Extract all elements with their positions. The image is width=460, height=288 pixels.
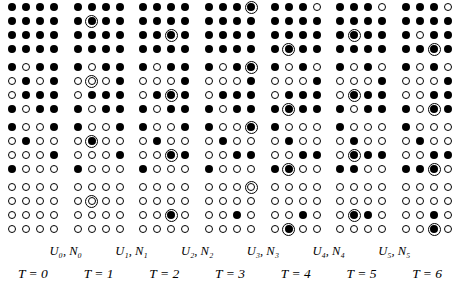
filled-site-icon bbox=[36, 105, 44, 113]
lattice-cell bbox=[361, 14, 375, 28]
empty-site-icon bbox=[247, 211, 255, 219]
filled-site-icon bbox=[153, 3, 161, 11]
empty-site-icon bbox=[116, 197, 124, 205]
lattice-cell bbox=[230, 74, 244, 88]
empty-site-icon bbox=[336, 183, 344, 191]
lattice-cell bbox=[202, 74, 216, 88]
lattice-cell bbox=[216, 162, 230, 176]
filled-site-icon bbox=[430, 45, 438, 53]
lattice-cell bbox=[33, 88, 47, 102]
lattice-cell bbox=[361, 134, 375, 148]
lattice-cell bbox=[85, 74, 99, 88]
lattice-band bbox=[268, 0, 324, 56]
empty-site-icon bbox=[350, 105, 358, 113]
filled-site-icon bbox=[378, 151, 386, 159]
empty-site-icon bbox=[205, 151, 213, 159]
lattice-cell bbox=[230, 162, 244, 176]
lattice-cell bbox=[399, 208, 413, 222]
lattice-cell bbox=[19, 194, 33, 208]
lattice-cell bbox=[244, 0, 258, 14]
lattice-cell bbox=[202, 14, 216, 28]
empty-site-icon bbox=[313, 123, 321, 131]
lattice-cell bbox=[216, 42, 230, 56]
lattice-cell bbox=[178, 120, 192, 134]
lattice-cell bbox=[136, 162, 150, 176]
filled-site-icon bbox=[8, 63, 16, 71]
lattice-cell bbox=[361, 0, 375, 14]
empty-site-icon bbox=[336, 137, 344, 145]
lattice-cell bbox=[216, 194, 230, 208]
lattice-cell bbox=[296, 60, 310, 74]
empty-site-icon bbox=[219, 197, 227, 205]
lattice-cell bbox=[333, 88, 347, 102]
lattice-cell bbox=[427, 74, 441, 88]
lattice-cell bbox=[347, 194, 361, 208]
empty-site-icon bbox=[285, 151, 293, 159]
filled-site-icon bbox=[36, 63, 44, 71]
filled-site-icon bbox=[271, 63, 279, 71]
lattice-cell bbox=[333, 42, 347, 56]
lattice-cell bbox=[296, 180, 310, 194]
filled-site-icon bbox=[181, 45, 189, 53]
empty-site-icon bbox=[74, 137, 82, 145]
empty-site-icon bbox=[416, 225, 424, 233]
filled-site-icon bbox=[139, 165, 147, 173]
lattice-cell bbox=[19, 28, 33, 42]
lattice-cell bbox=[427, 102, 441, 116]
lattice-cell bbox=[296, 74, 310, 88]
filled-site-icon bbox=[402, 123, 410, 131]
empty-site-icon bbox=[22, 123, 30, 131]
filled-site-icon bbox=[139, 17, 147, 25]
lattice-cell bbox=[216, 134, 230, 148]
lattice-cell bbox=[113, 162, 127, 176]
filled-site-icon bbox=[8, 123, 16, 131]
filled-site-icon bbox=[50, 17, 58, 25]
filled-site-icon bbox=[247, 63, 255, 71]
empty-site-icon bbox=[50, 137, 58, 145]
lattice-cell bbox=[347, 74, 361, 88]
filled-site-icon bbox=[50, 63, 58, 71]
empty-site-icon bbox=[88, 225, 96, 233]
filled-site-icon bbox=[364, 63, 372, 71]
lattice-cell bbox=[333, 208, 347, 222]
filled-site-icon bbox=[102, 31, 110, 39]
lattice-cell bbox=[33, 0, 47, 14]
empty-site-icon bbox=[102, 151, 110, 159]
filled-site-icon bbox=[102, 3, 110, 11]
empty-site-icon bbox=[50, 183, 58, 191]
lattice-cell bbox=[99, 194, 113, 208]
filled-site-icon bbox=[350, 211, 358, 219]
empty-site-icon bbox=[313, 3, 321, 11]
lattice-cell bbox=[296, 148, 310, 162]
lattice-cell bbox=[244, 162, 258, 176]
filled-site-icon bbox=[205, 31, 213, 39]
filled-site-icon bbox=[153, 31, 161, 39]
lattice-cell bbox=[216, 208, 230, 222]
lattice-cell bbox=[427, 42, 441, 56]
filled-site-icon bbox=[247, 3, 255, 11]
filled-site-icon bbox=[8, 3, 16, 11]
filled-site-icon bbox=[378, 17, 386, 25]
filled-site-icon bbox=[116, 45, 124, 53]
lattice-cell bbox=[113, 42, 127, 56]
filled-site-icon bbox=[22, 77, 30, 85]
lattice-cell bbox=[296, 162, 310, 176]
filled-site-icon bbox=[285, 3, 293, 11]
filled-site-icon bbox=[271, 165, 279, 173]
lattice-cell bbox=[268, 134, 282, 148]
empty-site-icon bbox=[247, 183, 255, 191]
lattice-cell bbox=[375, 222, 389, 236]
lattice-cell bbox=[164, 42, 178, 56]
empty-site-icon bbox=[402, 211, 410, 219]
filled-site-icon bbox=[430, 3, 438, 11]
lattice-cell bbox=[150, 28, 164, 42]
filled-site-icon bbox=[205, 17, 213, 25]
lattice-cell bbox=[441, 88, 455, 102]
filled-site-icon bbox=[50, 45, 58, 53]
empty-site-icon bbox=[378, 225, 386, 233]
lattice-cell bbox=[19, 134, 33, 148]
lattice-cell bbox=[333, 74, 347, 88]
filled-site-icon bbox=[167, 3, 175, 11]
lattice-cell bbox=[150, 162, 164, 176]
empty-site-icon bbox=[416, 211, 424, 219]
